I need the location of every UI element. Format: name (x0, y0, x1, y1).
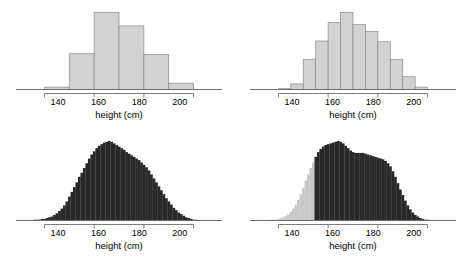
histogram-bar (291, 84, 303, 90)
histogram-bar (172, 208, 175, 221)
histogram-bar (150, 174, 153, 220)
tick-label: 140 (284, 98, 299, 107)
histogram-bar (341, 12, 353, 89)
histogram-bar (353, 24, 365, 89)
histogram-bar (63, 205, 66, 220)
histogram-bar (344, 146, 347, 221)
histogram-bar (83, 168, 86, 220)
histogram-bar (177, 213, 180, 221)
histogram-bar (138, 160, 141, 220)
histogram-bar (377, 158, 380, 221)
histogram-bar (416, 217, 419, 221)
histogram-bar (180, 214, 183, 220)
histogram-bar (108, 141, 111, 221)
histogram-bar (319, 149, 322, 221)
histogram-bar (337, 141, 340, 221)
histogram-bar (297, 200, 300, 221)
histogram-bar (165, 198, 168, 220)
histogram-bar (133, 157, 136, 221)
histogram-bar (379, 158, 382, 220)
histogram-bar (94, 12, 119, 89)
panel-bottom-right: 140 160 180 200 height (cm) (234, 131, 468, 262)
histogram-bar (105, 142, 108, 221)
tick-label: 160 (325, 229, 340, 238)
tick-label: 140 (50, 229, 65, 238)
histogram-bar (327, 144, 330, 220)
histogram-bar (68, 197, 71, 221)
histogram-bar (367, 155, 370, 221)
tick-label: 140 (50, 98, 65, 107)
histogram-bar (394, 177, 397, 221)
tick-label: 180 (366, 98, 381, 107)
histogram-bar (113, 143, 116, 220)
histogram-bar (170, 205, 173, 221)
histogram-bar (125, 152, 128, 220)
histogram-bar (403, 77, 415, 90)
histogram-bar (130, 155, 133, 220)
tick-label: 160 (325, 98, 340, 107)
axis-ticks-top-left (44, 94, 193, 98)
axis-ticks-top-right (278, 94, 427, 98)
histogram-bar (390, 59, 402, 89)
histogram-bar (411, 213, 414, 221)
tick-label: 180 (366, 229, 381, 238)
histogram-bar (316, 41, 328, 89)
histogram-bar (128, 154, 131, 221)
tick-label: 180 (132, 229, 147, 238)
histogram-bar (362, 153, 365, 221)
histogram-bar (140, 162, 143, 220)
tick-label: 200 (406, 229, 421, 238)
histogram-bar (404, 201, 407, 221)
histogram-bar (285, 216, 288, 221)
histogram-bar (69, 54, 94, 90)
histogram-bar (95, 148, 98, 220)
histogram-bar (354, 153, 357, 221)
histogram-bar (118, 147, 121, 221)
histogram-bar (51, 217, 54, 221)
histogram-bar (287, 214, 290, 220)
histogram-bar (56, 213, 59, 220)
histogram-bar (71, 192, 74, 221)
histogram-bar (382, 159, 385, 220)
histogram-bar (399, 189, 402, 220)
axis-ticks-bottom-right (278, 225, 427, 229)
histogram-bar (324, 145, 327, 221)
histogram-bar (322, 147, 325, 221)
histogram-bar (295, 205, 298, 221)
histogram-bar (290, 212, 293, 221)
bars-bottom-right (270, 141, 429, 221)
histogram-bar (88, 158, 91, 220)
histogram-bar (90, 155, 93, 221)
histogram-bar (406, 205, 409, 220)
histogram-bar (78, 177, 81, 221)
histogram-bar (328, 23, 340, 90)
histogram-bar (110, 142, 113, 221)
histogram-bar (409, 209, 412, 220)
panel-bottom-left: 140 160 180 200 height (cm) (0, 131, 234, 262)
histogram-bar (135, 158, 138, 220)
histogram-bar (302, 188, 305, 221)
histogram-bar (158, 186, 161, 220)
histogram-bar (73, 187, 76, 220)
tick-label: 160 (91, 98, 106, 107)
histogram-bar (80, 173, 83, 221)
histogram-bar (153, 178, 156, 220)
tick-label: 140 (284, 229, 299, 238)
histogram-bar (401, 195, 404, 220)
tick-label: 160 (91, 229, 106, 238)
histogram-bar (342, 143, 345, 220)
histogram-bar (119, 26, 144, 90)
histogram-bar (300, 194, 303, 220)
histogram-bar (307, 174, 310, 220)
histogram-bar (115, 145, 118, 221)
histogram-bar (53, 215, 56, 221)
histogram-bar (317, 152, 320, 220)
histogram-bar (169, 83, 194, 89)
tick-label: 180 (132, 98, 147, 107)
histogram-bar (374, 157, 377, 221)
histogram-bar (120, 148, 123, 220)
histogram-bar (145, 167, 148, 220)
histogram-bar (365, 31, 377, 89)
histogram-bar (378, 42, 390, 90)
tick-label: 200 (172, 229, 187, 238)
